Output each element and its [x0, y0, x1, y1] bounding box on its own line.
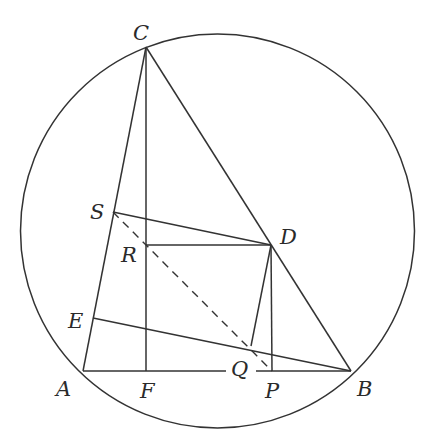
segment-sp — [113, 212, 272, 371]
label-d: D — [279, 225, 297, 249]
label-e: E — [67, 309, 83, 333]
label-f: F — [139, 379, 156, 403]
label-b: B — [356, 377, 372, 401]
label-a: A — [54, 377, 71, 401]
geometry-diagram: CSDREQAFPB — [0, 0, 427, 440]
segment-dp — [271, 245, 272, 371]
label-c: C — [133, 21, 149, 45]
segment-eb — [93, 318, 351, 371]
segment-sd — [113, 212, 271, 245]
circumcircle — [21, 34, 415, 428]
segment-bc — [146, 47, 351, 371]
label-q: Q — [231, 357, 248, 381]
label-s: S — [90, 200, 104, 224]
point-labels: CSDREQAFPB — [54, 21, 372, 403]
label-r: R — [120, 243, 137, 267]
segment-dq — [251, 245, 271, 346]
diagram-canvas: CSDREQAFPB — [0, 0, 427, 440]
label-p: P — [264, 379, 280, 403]
segments — [83, 47, 351, 371]
